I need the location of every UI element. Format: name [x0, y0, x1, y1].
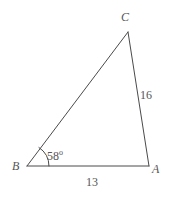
vertex-label-B: B: [12, 160, 19, 172]
side-length-label-BA: 13: [86, 176, 98, 188]
angle-measure-label-B: 58o: [47, 149, 63, 162]
triangle-figure: C A B 16 13 58o: [0, 0, 169, 197]
vertex-label-C: C: [121, 11, 129, 23]
angle-measure-value: 58: [47, 149, 59, 163]
side-BC-line: [27, 32, 128, 166]
side-length-label-CA: 16: [140, 89, 152, 101]
vertex-label-A: A: [152, 163, 159, 175]
degree-symbol-icon: o: [59, 148, 63, 157]
